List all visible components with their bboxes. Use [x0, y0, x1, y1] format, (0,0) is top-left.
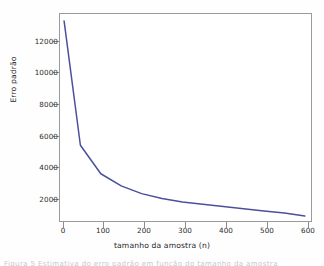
- x-ticklabel-0: 0: [43, 226, 83, 235]
- x-ticklabel-500: 500: [247, 226, 287, 235]
- x-ticklabel-300: 300: [165, 226, 205, 235]
- x-axis-title: tamanho da amostra (n): [0, 241, 324, 250]
- y-axis-title: Erro padrão: [9, 20, 18, 140]
- line-chart-svg: [60, 14, 313, 223]
- series-line-erro-padrao: [64, 21, 305, 216]
- x-ticklabel-400: 400: [206, 226, 246, 235]
- y-ticklabel-8000: 8000: [18, 100, 58, 109]
- x-ticklabel-100: 100: [83, 226, 123, 235]
- x-ticklabel-200: 200: [124, 226, 164, 235]
- y-ticklabel-12000: 12000: [18, 37, 58, 46]
- x-ticklabel-600: 600: [288, 226, 324, 235]
- figure-container: 12000 10000 8000 6000 4000 2000 0 100 20…: [0, 0, 324, 266]
- y-ticklabel-4000: 4000: [18, 163, 58, 172]
- caption-sliver: Figura 5 Estimativa do erro padrão em fu…: [4, 259, 278, 266]
- plot-area: [59, 13, 312, 222]
- y-ticklabel-10000: 10000: [18, 68, 58, 77]
- y-ticklabel-2000: 2000: [18, 195, 58, 204]
- y-ticklabel-6000: 6000: [18, 132, 58, 141]
